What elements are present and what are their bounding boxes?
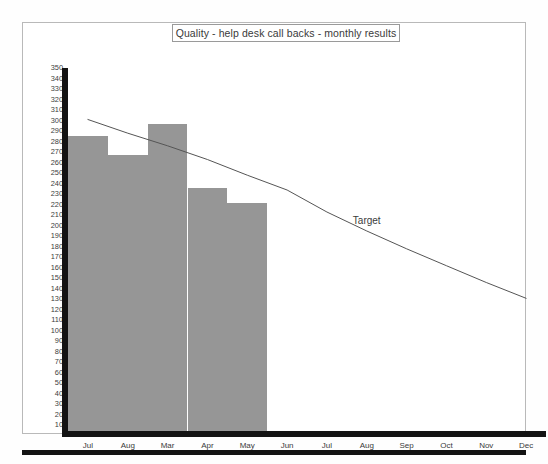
x-axis-tick-label: Oct (440, 441, 452, 450)
x-axis-tick-label: Dec (519, 441, 533, 450)
x-axis-tick-label: Aug (121, 441, 135, 450)
y-axis-tick-labels: 3503403303203103002902802702602502402302… (45, 68, 63, 437)
chart-frame: 3503403303203103002902802702602502402302… (22, 22, 526, 434)
x-axis-tick-label: Jul (83, 441, 93, 450)
x-axis-tick-label: Jun (281, 441, 294, 450)
x-axis-tick-label: May (240, 441, 255, 450)
x-axis-tick-label: Jul (322, 441, 332, 450)
x-axis-tick-label: Sep (399, 441, 413, 450)
chart-title-box: Quality - help desk call backs - monthly… (172, 24, 400, 42)
page-title: Quality - help desk call backs - monthly… (176, 27, 397, 39)
page-bottom-rule (22, 450, 526, 455)
x-axis-tick-label: Aug (360, 441, 374, 450)
target-line-series (68, 68, 546, 436)
scanned-page: 3503403303203103002902802702602502402302… (0, 0, 548, 464)
target-annotation-label: Target (353, 215, 381, 226)
x-axis-tick-label: Apr (201, 441, 213, 450)
x-axis-spine (62, 431, 546, 437)
x-axis-tick-label: Nov (479, 441, 493, 450)
y-axis-spine (62, 68, 68, 437)
x-axis-tick-label: Mar (161, 441, 175, 450)
plot-area: Target (68, 68, 546, 436)
